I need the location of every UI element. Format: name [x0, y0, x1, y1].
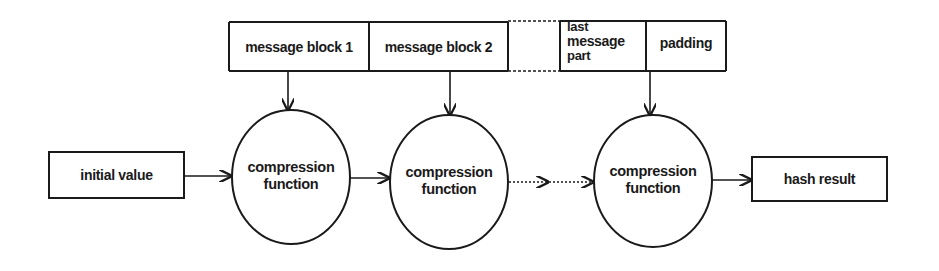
padding-label: padding	[660, 35, 712, 51]
compression-function-1: compression function	[232, 159, 350, 193]
compression-function-2: compression function	[390, 164, 508, 198]
message-block-2: message block 2	[369, 22, 508, 71]
initial-value-label: initial value	[80, 167, 152, 183]
compression-function-2-line-2: function	[390, 181, 508, 198]
message-block-1: message block 1	[229, 22, 369, 71]
last-message-part-line-1: last	[567, 21, 625, 33]
padding-block: padding	[646, 20, 726, 66]
compression-function-3-line-2: function	[594, 180, 712, 197]
message-block-1-label: message block 1	[245, 39, 353, 55]
compression-function-1-line-2: function	[232, 176, 350, 193]
hash-result-label: hash result	[784, 171, 855, 187]
message-block-2-label: message block 2	[385, 39, 493, 55]
hash-result: hash result	[752, 157, 887, 201]
compression-function-3: compression function	[594, 163, 712, 197]
compression-function-1-line-1: compression	[232, 159, 350, 176]
compression-function-2-line-1: compression	[390, 164, 508, 181]
last-message-part-block: last message part	[567, 21, 625, 62]
last-message-part-line-3: part	[567, 50, 625, 62]
initial-value: initial value	[49, 152, 184, 198]
compression-function-3-line-1: compression	[594, 163, 712, 180]
message-gap-block	[508, 22, 560, 71]
